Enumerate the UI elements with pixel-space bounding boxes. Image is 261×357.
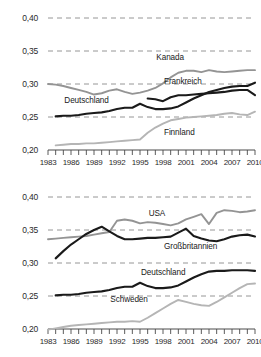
series-label-deutschland: Deutschland (141, 268, 185, 277)
series-label-grobritannien: Großbritannien (164, 242, 217, 251)
y-axis-tick-label: 0,25 (8, 112, 38, 122)
series-label-kanada: Kanada (156, 53, 184, 62)
series-label-frankreich: Frankreich (164, 77, 202, 86)
y-axis-tick-label: 0,35 (8, 225, 38, 235)
y-axis-tick-label: 0,40 (8, 192, 38, 202)
y-axis-tick-label: 0,30 (8, 79, 38, 89)
series-line-schweden (48, 283, 255, 329)
series-label-finnland: Finnland (164, 128, 195, 137)
plot-area (0, 179, 261, 357)
y-axis-tick-label: 0,30 (8, 258, 38, 268)
series-line-kanada (48, 70, 255, 94)
y-axis-tick-label: 0,20 (8, 324, 38, 334)
series-label-deutschland: Deutschland (64, 96, 108, 105)
series-line-grobritannien (56, 227, 255, 259)
series-label-usa: USA (149, 209, 166, 218)
y-axis-tick-label: 0,25 (8, 291, 38, 301)
x-axis-tick-label: 2010 (242, 337, 261, 346)
y-axis-tick-label: 0,35 (8, 46, 38, 56)
x-axis-tick-label: 2010 (242, 158, 261, 167)
y-axis-tick-label: 0,20 (8, 145, 38, 155)
plot-area (0, 0, 261, 178)
chart-panel-top: 0,400,350,300,250,2019831986198919921995… (0, 0, 261, 178)
figure-two-line-charts: 0,400,350,300,250,2019831986198919921995… (0, 0, 261, 357)
y-axis-tick-label: 0,40 (8, 13, 38, 23)
chart-panel-bottom: 0,400,350,300,250,2019831986198919921995… (0, 179, 261, 357)
series-label-schweden: Schweden (110, 295, 147, 304)
